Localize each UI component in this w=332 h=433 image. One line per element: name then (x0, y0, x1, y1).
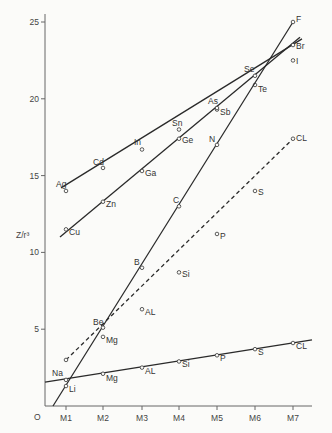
point-label: B (134, 257, 140, 267)
data-point (140, 148, 144, 152)
origin-label: O (34, 412, 41, 422)
point-label: Cd (93, 157, 104, 167)
point-label: CL (296, 341, 307, 351)
data-point (291, 43, 295, 47)
point-label: S (258, 347, 264, 357)
data-point (177, 137, 181, 141)
point-label: As (208, 96, 218, 106)
y-axis-label: Z/r³ (16, 230, 29, 240)
point-label: Mg (106, 373, 118, 383)
data-point (291, 20, 295, 24)
point-label: F (296, 14, 301, 24)
y-tick-label: 20 (30, 94, 40, 104)
point-label: N (209, 134, 215, 144)
data-point (177, 271, 181, 275)
point-label: Mg (106, 335, 118, 345)
point-label: I (296, 56, 298, 66)
data-point (140, 266, 144, 270)
data-point (177, 128, 181, 132)
point-label: Sb (220, 107, 231, 117)
point-label: In (134, 137, 141, 147)
point-label: Ge (182, 135, 194, 145)
point-label: P (220, 353, 226, 363)
y-tick-label: 10 (30, 247, 40, 257)
data-point (215, 232, 219, 236)
point-label: AL (145, 366, 156, 376)
x-tick-label: M6 (249, 413, 261, 423)
data-point (64, 189, 68, 193)
point-label: CL (296, 133, 307, 143)
point-label: Se (244, 64, 255, 74)
point-label: Si (182, 359, 190, 369)
point-label: S (258, 187, 264, 197)
data-point (291, 137, 295, 141)
y-tick-label: 15 (30, 171, 40, 181)
data-point (253, 74, 257, 78)
data-point (291, 341, 295, 345)
data-point (253, 347, 257, 351)
data-point (291, 59, 295, 63)
data-point (177, 360, 181, 364)
point-label: Sn (172, 118, 183, 128)
point-label: Na (52, 368, 63, 378)
point-label: C (173, 195, 179, 205)
x-tick-label: M3 (136, 413, 148, 423)
y-tick-label: 25 (30, 17, 40, 27)
data-point (101, 372, 105, 376)
data-point (101, 335, 105, 339)
point-label: Zn (106, 199, 116, 209)
point-label: AL (145, 307, 156, 317)
point-label: Ag (56, 179, 67, 189)
point-label: Cu (69, 227, 80, 237)
data-point (215, 143, 219, 147)
data-point (140, 169, 144, 173)
data-point (140, 366, 144, 370)
series-line (66, 139, 293, 360)
point-label: Si (182, 269, 190, 279)
data-point (64, 384, 68, 388)
data-point (215, 106, 219, 110)
data-point (64, 358, 68, 362)
data-point (253, 189, 257, 193)
x-tick-label: M1 (60, 413, 72, 423)
point-label: Te (258, 84, 267, 94)
x-tick-label: M7 (287, 413, 299, 423)
x-tick-label: M2 (97, 413, 109, 423)
x-tick-label: M5 (211, 413, 223, 423)
chart: 510152025OM1M2M3M4M5M6M7Z/r³AgCdInSnSbTe… (0, 0, 332, 433)
data-point (215, 354, 219, 358)
data-point (64, 378, 68, 382)
y-tick-label: 5 (34, 324, 39, 334)
data-point (64, 228, 68, 232)
point-label: Li (69, 384, 76, 394)
x-tick-label: M4 (173, 413, 185, 423)
data-point (101, 200, 105, 204)
point-label: Ga (145, 168, 157, 178)
data-point (140, 307, 144, 311)
point-label: P (220, 231, 226, 241)
point-label: Br (296, 41, 305, 51)
